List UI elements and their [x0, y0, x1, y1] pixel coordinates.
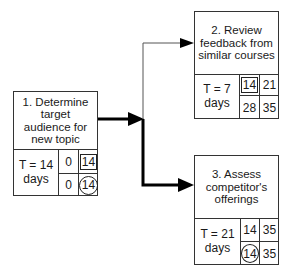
node-2-es: 14 [239, 75, 259, 96]
node-1-lf: 14 [78, 174, 98, 196]
node-1-es: 0 [58, 150, 78, 174]
node-2: 2. Review feedback from similar courses … [194, 11, 279, 119]
node-3-ef: 35 [259, 219, 279, 242]
node-2-lf: 35 [259, 96, 279, 119]
node-2-duration: T = 7 days [195, 73, 239, 118]
node-2-ls: 28 [239, 96, 259, 119]
node-2-duration-unit: days [204, 96, 229, 110]
node-1-ef: 14 [78, 150, 98, 174]
node-1-duration-unit: days [23, 172, 48, 186]
arrowhead-node2-icon [180, 38, 194, 48]
node-2-duration-value: T = 7 [203, 82, 230, 96]
node-1-title: 1. Determine target audience for new top… [14, 92, 97, 150]
edge-1-2 [143, 43, 180, 119]
node-1: 1. Determine target audience for new top… [13, 91, 98, 196]
node-2-title: 2. Review feedback from similar courses [195, 12, 278, 75]
node-3-duration-unit: days [205, 241, 230, 255]
node-3-duration: T = 21 days [195, 217, 240, 264]
node-2-ef: 21 [259, 75, 279, 96]
node-3-ls: 14 [240, 242, 259, 265]
node-3-title: 3. Assess competitor's offerings [195, 156, 278, 219]
edge-1-3 [143, 119, 180, 185]
node-1-duration: T = 14 days [14, 148, 58, 195]
node-3-es: 14 [240, 219, 259, 242]
arrowhead-node3-icon [178, 178, 194, 192]
node-1-duration-value: T = 14 [19, 158, 53, 172]
node-3-lf: 35 [259, 242, 279, 265]
node-3-duration-value: T = 21 [200, 227, 234, 241]
node-3: 3. Assess competitor's offerings T = 21 … [194, 155, 279, 265]
node-1-ls: 0 [58, 174, 78, 196]
